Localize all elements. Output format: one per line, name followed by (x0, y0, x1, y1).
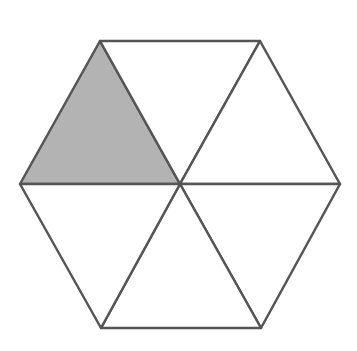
hexagon-diagram (0, 0, 357, 351)
triangle-group (20, 41, 340, 328)
